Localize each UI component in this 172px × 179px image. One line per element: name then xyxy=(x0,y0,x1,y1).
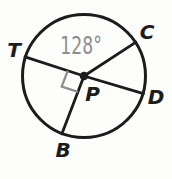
geometry-figure: 128° T C D B P xyxy=(0,0,172,179)
radius-PB xyxy=(62,76,84,134)
center-label-p: P xyxy=(85,84,100,104)
point-label-t: T xyxy=(7,40,21,60)
point-label-d: D xyxy=(148,87,165,107)
center-point-dot xyxy=(80,72,89,81)
point-label-c: C xyxy=(140,22,155,42)
central-angle-label: 128° xyxy=(60,34,102,58)
point-label-b: B xyxy=(55,140,70,160)
